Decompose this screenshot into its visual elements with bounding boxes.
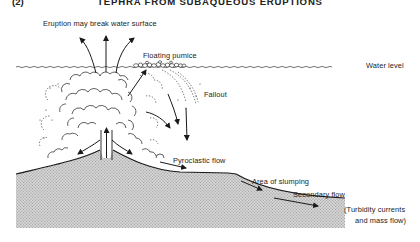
figure-title: TEPHRA FROM SUBAQUEOUS ERUPTIONS xyxy=(0,0,420,7)
diagram-canvas: (2) TEPHRA FROM SUBAQUEOUS ERUPTIONS Eru… xyxy=(0,0,420,242)
label-secondary-flow: Secondary flow xyxy=(293,190,345,199)
label-area-of-slumping: Area of slumping xyxy=(252,177,309,186)
arrow-fallout-3 xyxy=(186,108,187,140)
ash-dispersal xyxy=(39,70,198,146)
arrow-to-pumice xyxy=(128,70,146,96)
ash-particles xyxy=(40,84,201,139)
label-turbidity-line2: and mass flow) xyxy=(355,216,406,225)
arrow-fallout-1 xyxy=(146,112,170,128)
label-water-level: Water level xyxy=(366,61,404,70)
label-eruption: Eruption may break water surface xyxy=(43,19,157,28)
floating-pumice xyxy=(134,61,186,68)
label-turbidity-line1: (Turbidity currents xyxy=(344,205,405,214)
label-floating-pumice: Floating pumice xyxy=(143,51,197,60)
label-pyroclastic-flow: Pyroclastic flow xyxy=(173,156,226,165)
eruption-cloud xyxy=(48,72,164,158)
label-fallout: Fallout xyxy=(204,90,227,99)
arrow-fallout-2 xyxy=(168,94,178,124)
